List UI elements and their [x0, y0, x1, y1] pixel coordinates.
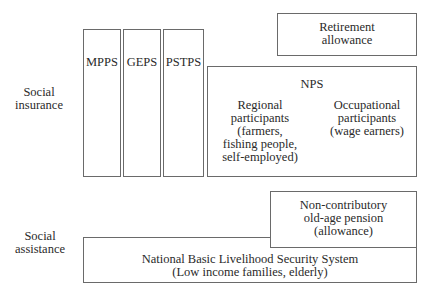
label-line: assistance — [14, 243, 66, 256]
label-nps-regional: Regional participants (farmers, fishing … — [215, 99, 305, 164]
label-non-contributory-pension: Non-contributory old-age pension (allowa… — [270, 199, 417, 238]
row-label-social-insurance: Social insurance — [14, 86, 64, 112]
text-line: self-employed) — [215, 151, 305, 164]
label-pstps: PSTPS — [163, 56, 204, 69]
label-geps: GEPS — [123, 56, 161, 69]
box-geps — [123, 29, 161, 177]
label-retirement-allowance: Retirement allowance — [277, 21, 417, 47]
label-nps-occupational: Occupational participants (wage earners) — [322, 99, 412, 138]
text-line: (allowance) — [270, 225, 417, 238]
label-nblss: National Basic Livelihood Security Syste… — [83, 253, 417, 279]
box-pstps — [163, 29, 204, 177]
text-line: (wage earners) — [322, 125, 412, 138]
text-line: (Low income families, elderly) — [83, 266, 417, 279]
text-line: allowance — [277, 34, 417, 47]
label-line: insurance — [14, 99, 64, 112]
label-nps-title: NPS — [207, 78, 417, 91]
box-mpps — [83, 29, 121, 177]
row-label-social-assistance: Social assistance — [14, 230, 66, 256]
label-mpps: MPPS — [83, 56, 121, 69]
